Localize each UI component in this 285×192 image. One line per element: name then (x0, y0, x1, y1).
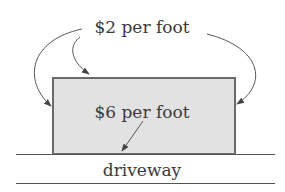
inner-cost-label: $6 per foot (94, 102, 189, 122)
top-cost-label: $2 per foot (94, 17, 189, 37)
arrow-top-side (73, 37, 89, 74)
driveway-label: driveway (103, 160, 182, 180)
fence-cost-diagram: $2 per foot $6 per foot driveway (0, 0, 285, 192)
